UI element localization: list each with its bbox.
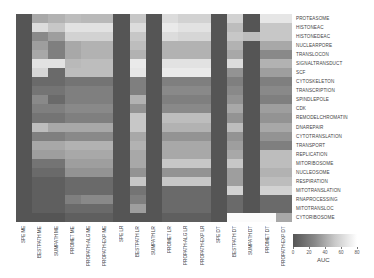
row-label: MITOTRANSLATION: [296, 186, 341, 195]
row-label: REPLICATION: [296, 150, 327, 159]
row-label: MITORIBOSOME: [296, 159, 333, 168]
heatmap-cell: [276, 213, 293, 223]
row-label: NUCLEARPORE: [296, 41, 332, 50]
row-label: CYTOSKELETON: [296, 77, 334, 86]
column-label: PROPATH-EXP LR: [200, 226, 205, 274]
row-label: CYTORIBOSOME: [296, 213, 335, 222]
heatmap-cell: [162, 213, 179, 223]
column-label: PROPATH-EXP ME: [102, 226, 107, 274]
heatmap-cell: [195, 213, 212, 223]
tick-label: 20: [306, 250, 311, 255]
row-label: PROTEASOME: [296, 14, 329, 23]
column-label: SPE LR: [119, 226, 124, 274]
colorbar-label: AUC: [317, 257, 330, 263]
column-label: SUMPATH DT: [248, 226, 253, 274]
column-label: PROMET LR: [167, 226, 172, 274]
tick-mark: [293, 247, 294, 249]
heatmap-cell: [97, 213, 114, 223]
row-label: SPINDLEPOLE: [296, 95, 329, 104]
row-label: HISTONEDEAC: [296, 32, 330, 41]
row-label: HISTONEAC: [296, 23, 324, 32]
tick-mark: [341, 247, 342, 249]
tick-mark: [357, 247, 358, 249]
row-label: RNAPROCESSING: [296, 195, 338, 204]
row-label: REMODELCHROMATIN: [296, 113, 348, 122]
heatmap-cell: [178, 213, 195, 223]
heatmap-cell: [81, 213, 98, 223]
column-label: BESTPATH DT: [232, 226, 237, 274]
colorbar: [293, 234, 357, 247]
heatmap-cell: [260, 213, 277, 223]
tick-label: 60: [338, 250, 343, 255]
heatmap-grid: [16, 14, 292, 222]
tick-label: 40: [322, 250, 327, 255]
row-label: DNAREPAIR: [296, 123, 323, 132]
column-label: BESTPATH LR: [135, 226, 140, 274]
tick-label: 80: [354, 250, 359, 255]
heatmap-cell: [243, 213, 260, 223]
column-label: PROPATH-ALG LR: [183, 226, 188, 274]
column-label: SPE DT: [216, 226, 221, 274]
row-label: RESPIRATION: [296, 177, 328, 186]
heatmap-cell: [113, 213, 130, 223]
row-label: NUCLEOSOME: [296, 168, 330, 177]
row-label: TRANSCRIPTION: [296, 86, 335, 95]
row-label: CDK: [296, 104, 306, 113]
column-label: SPE ME: [21, 226, 26, 274]
column-label: PROPATH-ALG ME: [86, 226, 91, 274]
column-label: PROMET ME: [70, 226, 75, 274]
row-label: TRANSLOCON: [296, 50, 329, 59]
heatmap-cell: [211, 213, 228, 223]
row-label: MITOTRANSLOC: [296, 204, 334, 213]
tick-mark: [325, 247, 326, 249]
column-label: BESTPATH ME: [37, 226, 42, 274]
heatmap-cell: [48, 213, 65, 223]
heatmap-cell: [130, 213, 147, 223]
column-label: SUMPATH ME: [54, 226, 59, 274]
column-label: SUMPATH LR: [151, 226, 156, 274]
heatmap-cell: [16, 213, 33, 223]
tick-label: 0: [292, 250, 295, 255]
heatmap-cell: [227, 213, 244, 223]
row-label: SCF: [296, 68, 306, 77]
column-label: PROPATH-EXP DT: [281, 226, 286, 274]
heatmap-cell: [65, 213, 82, 223]
heatmap-cell: [146, 213, 163, 223]
column-label: PROMET DT: [265, 226, 270, 274]
row-label: TRANSPORT: [296, 141, 325, 150]
row-label: CYTOTRANSLATION: [296, 132, 342, 141]
row-label: SIGNALTRANSDUCT: [296, 59, 342, 68]
tick-mark: [309, 247, 310, 249]
heatmap-cell: [32, 213, 49, 223]
